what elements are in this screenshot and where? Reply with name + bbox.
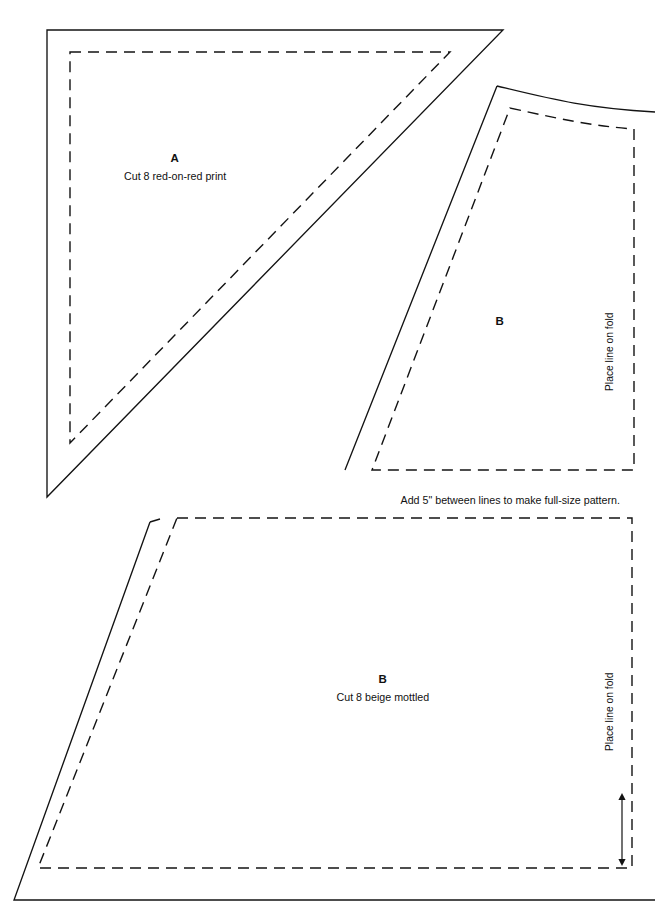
pattern-sheet: A Cut 8 red-on-red print B Place line on…: [0, 0, 661, 920]
piece-a-seam-line: [70, 52, 450, 443]
piece-a-cut-line: [47, 30, 503, 497]
piece-b-large-seam-line: [38, 518, 632, 868]
scale-instruction-note: Add 5" between lines to make full-size p…: [401, 494, 620, 506]
pattern-drawing: [0, 0, 661, 920]
piece-b-large-fold-label: Place line on fold: [604, 673, 615, 751]
piece-a-letter-label: A: [171, 152, 180, 164]
piece-b-large-cut-line: [14, 519, 655, 900]
piece-b-small-fold-label: Place line on fold: [604, 313, 615, 391]
seam-allowance-arrow: [618, 793, 625, 866]
piece-b-large-group: [14, 518, 655, 900]
piece-b-large-letter-label: B: [379, 673, 388, 685]
arrow-head-up-icon: [618, 793, 625, 800]
arrow-head-down-icon: [618, 859, 625, 866]
piece-b-large-description-label: Cut 8 beige mottled: [337, 691, 430, 703]
piece-a-triangle-group: [47, 30, 503, 497]
piece-b-small-letter-label: B: [496, 315, 505, 327]
piece-a-description-label: Cut 8 red-on-red print: [124, 170, 226, 182]
piece-b-small-seam-line: [372, 108, 634, 470]
